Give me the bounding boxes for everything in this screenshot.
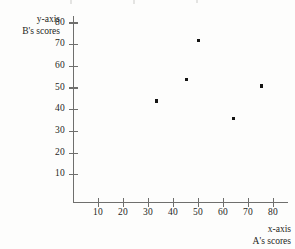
y-axis-tick <box>69 87 78 88</box>
x-axis-tick-label: 40 <box>161 207 185 217</box>
y-axis-tick-label: 60 <box>43 60 65 70</box>
y-axis-tick-label: 30 <box>43 125 65 135</box>
y-axis-tick-label: 40 <box>43 103 65 113</box>
data-point <box>260 84 263 87</box>
x-axis-tick <box>273 198 274 207</box>
x-axis-label: x-axis A's scores <box>213 224 291 247</box>
x-axis-line <box>73 202 288 203</box>
y-axis-tick <box>69 44 78 45</box>
y-axis-tick <box>69 109 78 110</box>
y-axis-tick <box>69 131 78 132</box>
scan-artifact <box>196 0 198 3</box>
x-axis-tick-label: 20 <box>111 207 135 217</box>
scan-artifact <box>133 0 135 4</box>
x-axis-tick-label: 70 <box>236 207 260 217</box>
data-point <box>155 99 158 102</box>
y-axis-tick <box>69 22 78 23</box>
data-point <box>232 117 235 120</box>
y-axis-tick-label: 50 <box>43 82 65 92</box>
y-axis-tick <box>69 174 78 175</box>
x-axis-tick-label: 50 <box>186 207 210 217</box>
y-axis-tick <box>69 66 78 67</box>
x-axis-tick <box>198 198 199 207</box>
data-point <box>185 78 188 81</box>
y-axis-label-line1: y-axis <box>0 14 60 26</box>
scatter-plot-figure: 80 70 60 50 40 30 20 10 10 20 30 40 50 6… <box>0 0 295 249</box>
y-axis-label-line2: B's scores <box>0 26 60 38</box>
y-axis-tick-label: 70 <box>43 38 65 48</box>
y-axis-tick-label: 10 <box>43 168 65 178</box>
y-axis-label: y-axis B's scores <box>0 14 60 37</box>
x-axis-tick <box>148 198 149 207</box>
data-point <box>197 39 200 42</box>
x-axis-tick <box>223 198 224 207</box>
x-axis-label-line1: x-axis <box>213 224 291 236</box>
x-axis-tick-label: 60 <box>211 207 235 217</box>
y-axis-tick <box>69 153 78 154</box>
x-axis-tick <box>248 198 249 207</box>
x-axis-tick <box>173 198 174 207</box>
y-axis-tick-label: 20 <box>43 147 65 157</box>
x-axis-tick-label: 10 <box>86 207 110 217</box>
x-axis-tick <box>123 198 124 207</box>
x-axis-tick-label: 30 <box>136 207 160 217</box>
x-axis-tick-label: 80 <box>261 207 285 217</box>
x-axis-tick <box>98 198 99 207</box>
x-axis-label-line2: A's scores <box>213 236 291 248</box>
scan-artifact <box>70 0 72 4</box>
